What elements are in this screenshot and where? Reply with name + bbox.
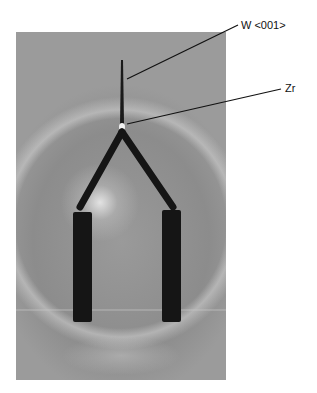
tip-leader-line (127, 25, 238, 79)
zr-label: Zr (285, 82, 295, 94)
tip-label: W <001> (241, 19, 286, 31)
leader-lines (0, 0, 317, 393)
zr-leader-line (127, 89, 281, 124)
